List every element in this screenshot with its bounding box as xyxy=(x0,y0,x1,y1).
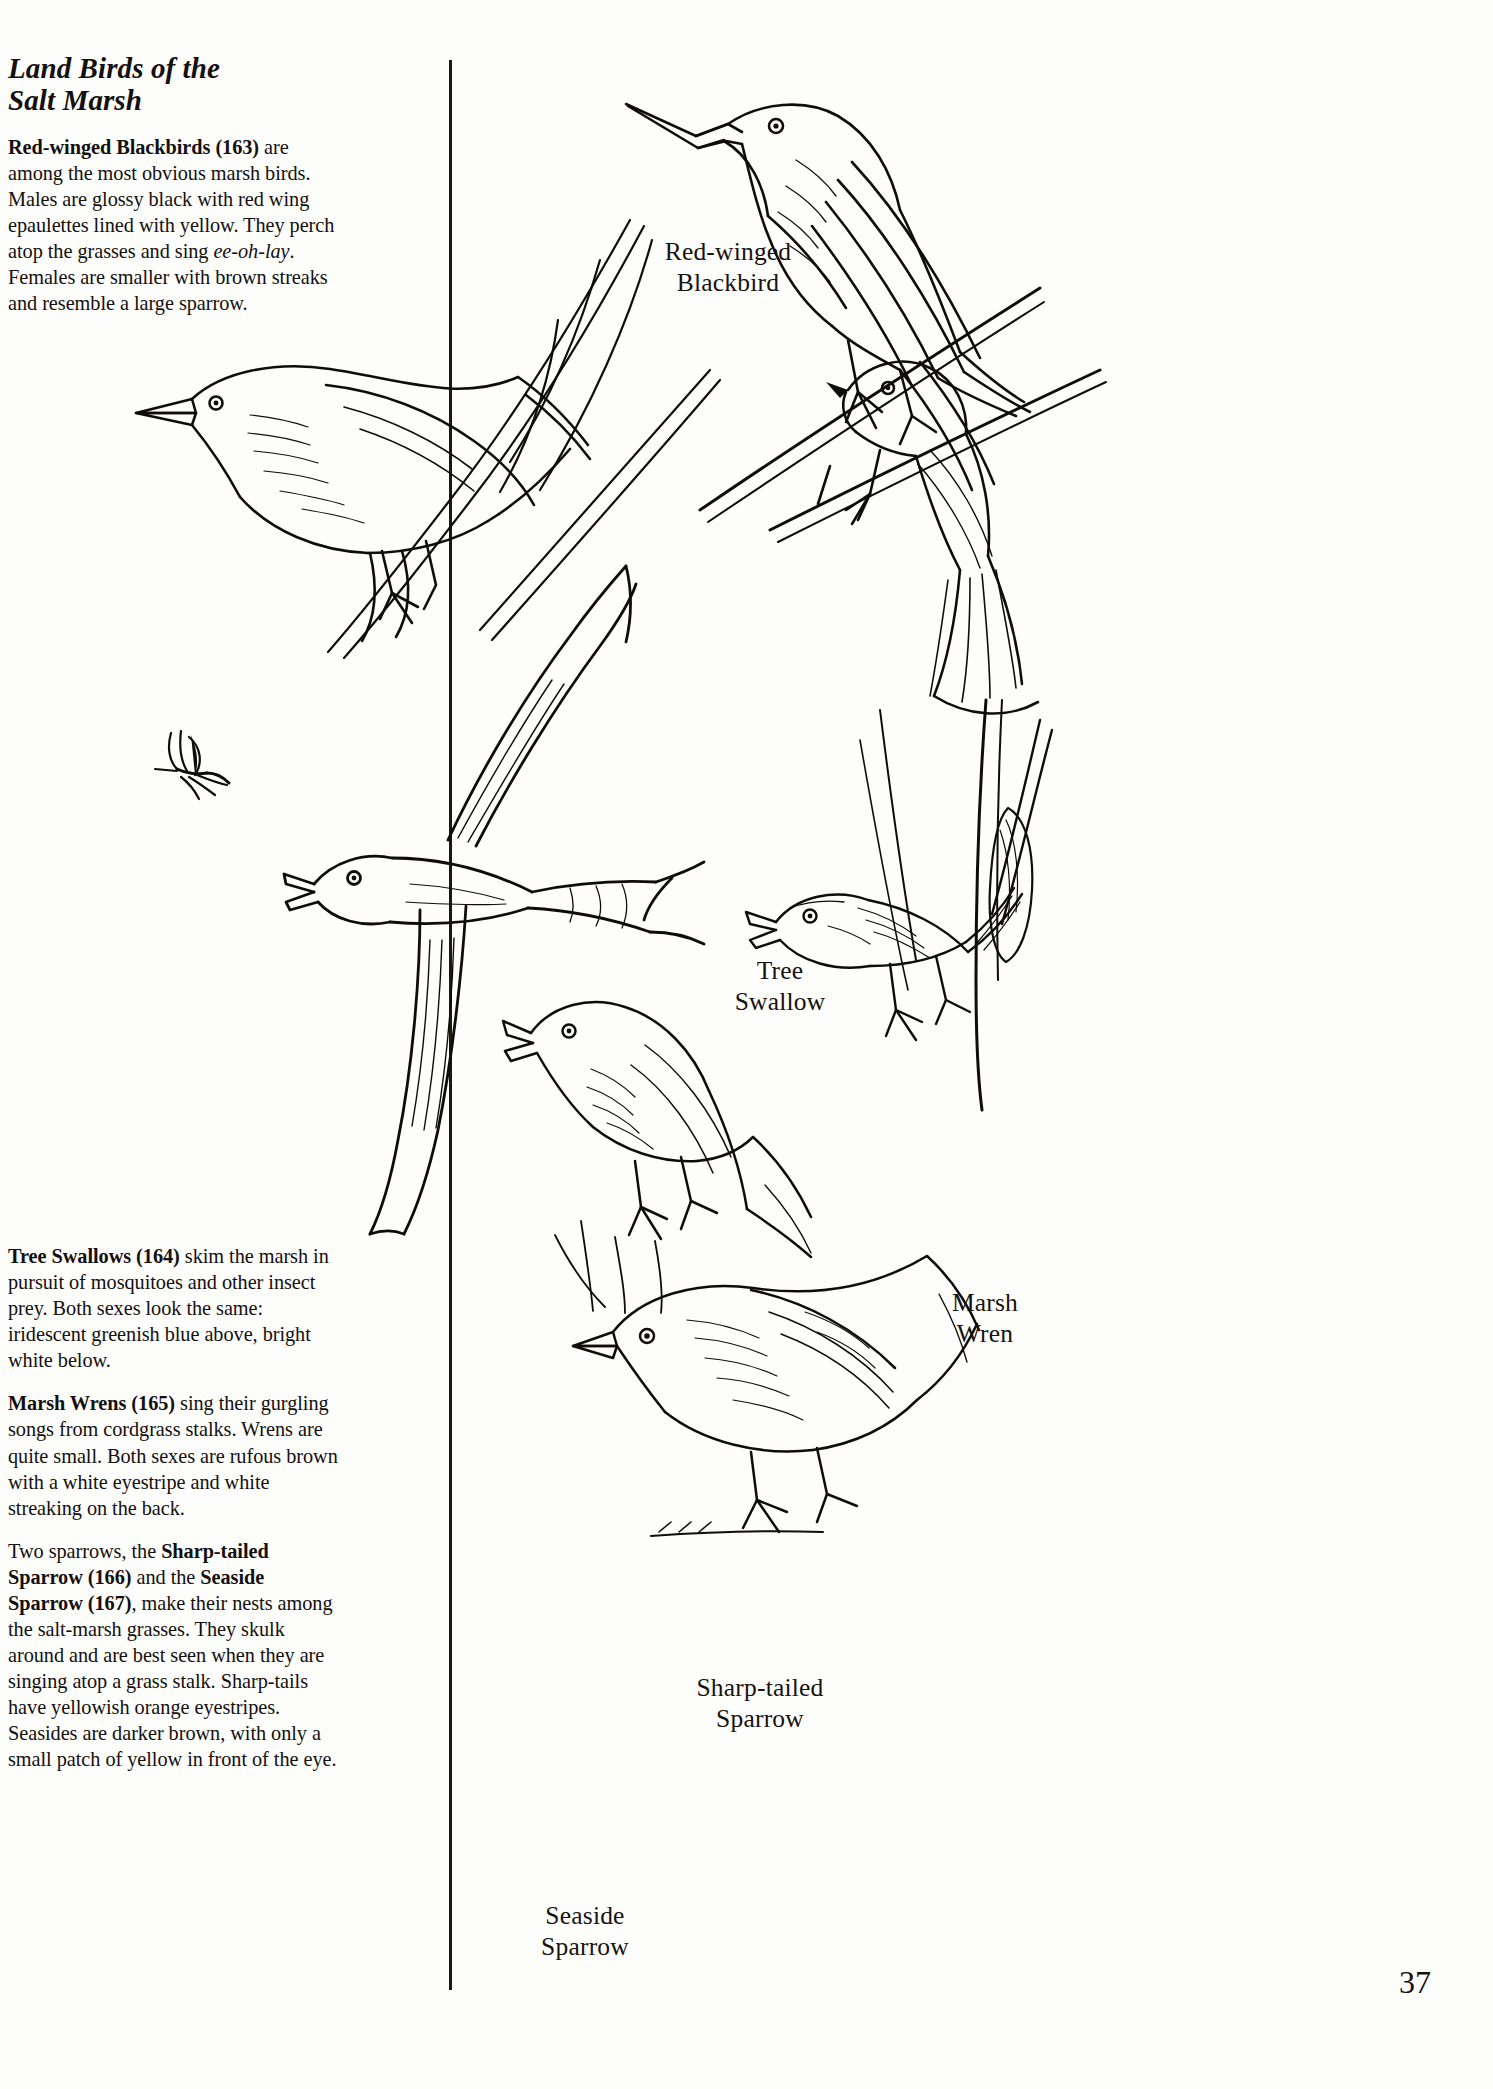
label-line-2: Sparrow xyxy=(475,1931,695,1962)
label-red-winged-blackbird: Red-winged Blackbird xyxy=(628,236,828,298)
label-seaside-sparrow: Seaside Sparrow xyxy=(475,1900,695,1962)
label-tree-swallow: Tree Swallow xyxy=(690,955,870,1017)
text-column-lower: Tree Swallows (164) skim the marsh in pu… xyxy=(8,1243,338,1789)
paragraph-sparrows-intro: Two sparrows, the xyxy=(8,1540,161,1562)
label-marsh-wren: Marsh Wren xyxy=(890,1287,1080,1349)
species-name-tree-swallow: Tree Swallows (164) xyxy=(8,1245,180,1267)
label-line-1: Seaside xyxy=(475,1900,695,1931)
label-line-2: Blackbird xyxy=(628,267,828,298)
illustration-blackbird-fanned-tail xyxy=(770,330,1200,730)
species-name-red-winged-blackbird: Red-winged Blackbirds (163) xyxy=(8,136,259,158)
paragraph-sparrows: Two sparrows, the Sharp-tailed Sparrow (… xyxy=(8,1538,338,1773)
field-guide-page: Land Birds of the Salt Marsh Red-winged … xyxy=(0,0,1493,2089)
page-title-line-1: Land Birds of the xyxy=(8,52,338,84)
label-line-2: Wren xyxy=(890,1318,1080,1349)
paragraph-marsh-wren: Marsh Wrens (165) sing their gurgling so… xyxy=(8,1390,338,1520)
song-transcription: ee-oh-lay xyxy=(213,240,289,262)
label-line-1: Sharp-tailed xyxy=(600,1672,920,1703)
page-title-line-2: Salt Marsh xyxy=(8,84,338,116)
label-line-2: Swallow xyxy=(690,986,870,1017)
paragraph-sparrows-tail: , make their nests among the salt-marsh … xyxy=(8,1592,337,1770)
paragraph-red-winged-blackbird: Red-winged Blackbirds (163) are among th… xyxy=(8,134,338,317)
illustration-mosquito xyxy=(145,725,235,815)
label-line-1: Marsh xyxy=(890,1287,1080,1318)
species-name-marsh-wren: Marsh Wrens (165) xyxy=(8,1392,175,1414)
paragraph-sparrows-mid: and the xyxy=(131,1566,200,1588)
label-line-1: Red-winged xyxy=(628,236,828,267)
paragraph-tree-swallow: Tree Swallows (164) skim the marsh in pu… xyxy=(8,1243,338,1373)
label-line-2: Sparrow xyxy=(600,1703,920,1734)
label-line-1: Tree xyxy=(690,955,870,986)
page-number: 37 xyxy=(1399,1964,1431,2001)
page-title: Land Birds of the Salt Marsh xyxy=(8,52,338,117)
text-column-upper: Land Birds of the Salt Marsh Red-winged … xyxy=(8,52,338,333)
label-sharp-tailed-sparrow: Sharp-tailed Sparrow xyxy=(600,1672,920,1734)
